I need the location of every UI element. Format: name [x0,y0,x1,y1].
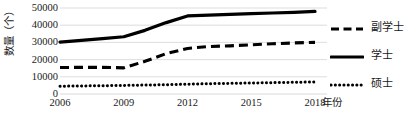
series-line [60,82,315,86]
plot-svg [60,8,315,94]
legend-entry[interactable]: 副学士 [330,20,404,34]
series-line [60,42,315,67]
y-axis-tick-label: 30000 [32,37,58,48]
y-axis-tick-label: 20000 [32,54,58,65]
legend-swatch-dashed [330,21,364,33]
plot-area [60,8,315,94]
series-lines [60,11,315,86]
x-axis-tick-labels: 20062009201220152018 [60,98,315,116]
legend-label: 学士 [371,50,393,61]
chart-legend: 副学士学士硕士 [330,17,418,93]
line-chart: 数量（个） 01000020000300004000050000 2006200… [0,0,419,132]
y-axis-tick-label: 10000 [32,72,58,83]
legend-label: 硕士 [371,78,393,89]
gridlines [60,8,327,94]
x-axis-title: 年份 [322,98,342,109]
y-axis-tick-label: 50000 [32,3,58,14]
x-axis-tick-label: 2009 [113,98,134,109]
legend-entry[interactable]: 硕士 [330,76,393,90]
legend-swatch-solid [330,49,364,61]
legend-entry[interactable]: 学士 [330,48,393,62]
x-axis-tick-label: 2006 [50,98,71,109]
y-axis-tick-label: 40000 [32,20,58,31]
legend-label: 副学士 [371,22,404,33]
y-axis-tick-labels: 01000020000300004000050000 [14,8,58,94]
x-axis-tick-label: 2015 [241,98,262,109]
legend-swatch-dotted [330,77,364,89]
x-axis-tick-label: 2012 [177,98,198,109]
series-line [60,11,315,42]
